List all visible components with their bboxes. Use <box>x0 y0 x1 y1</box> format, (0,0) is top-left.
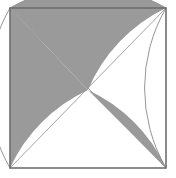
geometry-figure-svg <box>0 0 176 178</box>
geometry-figure-container <box>0 0 176 178</box>
